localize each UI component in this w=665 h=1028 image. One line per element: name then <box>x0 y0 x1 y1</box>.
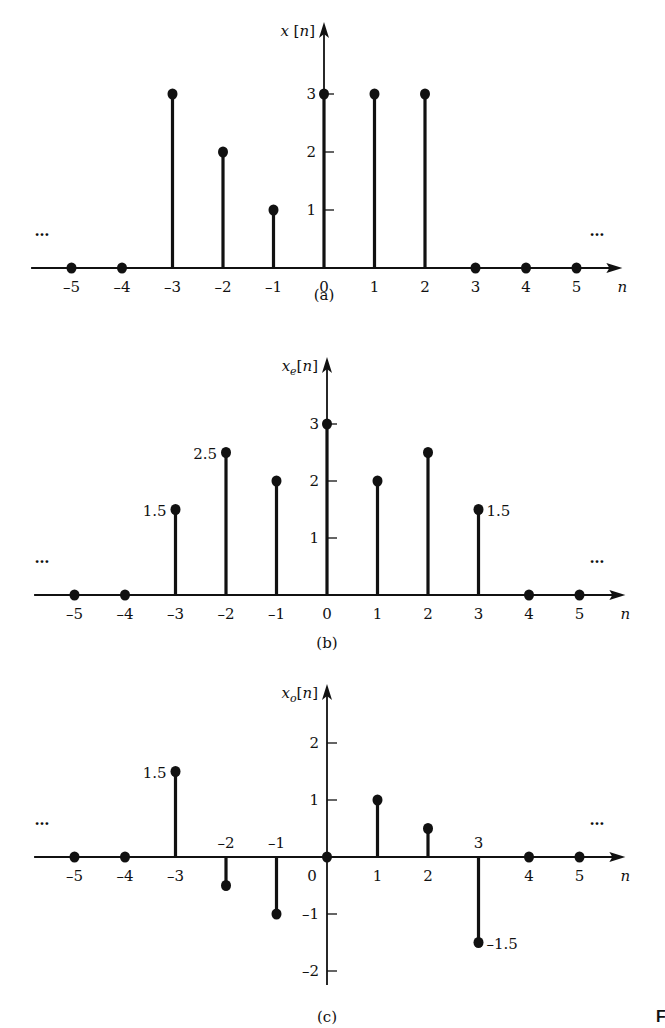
point-value-label: 1.5 <box>143 764 167 782</box>
x-tick-label: 4 <box>524 605 534 623</box>
stem-marker <box>373 476 383 487</box>
stem-marker <box>120 852 130 863</box>
x-tick-label: 0 <box>322 605 332 623</box>
stem-marker <box>269 205 279 216</box>
y-tick-label: 3 <box>309 415 319 433</box>
stem-marker <box>524 852 534 863</box>
x-tick-label: 0 <box>307 867 317 885</box>
continuation-dots-right: … <box>590 811 605 829</box>
panel-a-x-of-n: x [n]123–5–4–3–2–1012345n……(a) <box>31 22 627 304</box>
panel-b-even-part: xe[n]123–5–4–3–2–1012345n1.52.51.5……(b) <box>34 357 630 652</box>
x-axis-label: n <box>621 605 631 623</box>
continuation-dots-left: … <box>35 549 50 567</box>
panel-c-odd-part: xo[n]–2–112–5–4–3–2–1012345n1.5–1.5……(c) <box>34 684 630 1026</box>
stem-marker <box>373 795 383 806</box>
x-tick-label: 5 <box>572 278 582 296</box>
x-tick-label: 3 <box>471 278 481 296</box>
x-tick-label: –5 <box>66 867 83 885</box>
stem-marker <box>171 766 181 777</box>
x-axis-label: n <box>618 278 628 296</box>
panel-caption: (c) <box>317 1008 337 1026</box>
x-tick-label: 2 <box>420 278 430 296</box>
x-tick-label: 2 <box>423 605 433 623</box>
stem-marker <box>474 937 484 948</box>
point-value-label: –1.5 <box>487 935 518 953</box>
continuation-dots-right: … <box>590 222 605 240</box>
x-tick-label: –1 <box>268 605 285 623</box>
x-tick-label: –2 <box>214 278 231 296</box>
y-tick-label: 3 <box>306 85 316 103</box>
x-tick-label: –5 <box>66 605 83 623</box>
point-value-label: 1.5 <box>143 502 167 520</box>
y-tick-label: 1 <box>309 791 319 809</box>
x-axis-label: n <box>621 867 631 885</box>
signal-decomposition-figure: x [n]123–5–4–3–2–1012345n……(a) xe[n]123–… <box>0 0 665 1028</box>
x-tick-label: 4 <box>521 278 531 296</box>
stem-marker <box>575 590 585 601</box>
x-tick-label: 4 <box>524 867 534 885</box>
x-tick-label: 5 <box>575 867 585 885</box>
stem-marker <box>370 89 380 100</box>
x-tick-label: –2 <box>217 605 234 623</box>
x-tick-label: 3 <box>474 834 484 852</box>
x-tick-label: –4 <box>116 605 133 623</box>
stem-marker <box>70 590 80 601</box>
stem-marker <box>168 89 178 100</box>
panel-caption: (b) <box>316 634 337 652</box>
stem-marker <box>575 852 585 863</box>
stem-marker <box>221 880 231 891</box>
y-axis-label: x [n] <box>280 22 315 40</box>
stem-marker <box>117 263 127 274</box>
x-tick-label: 1 <box>370 278 380 296</box>
y-axis-label: xo[n] <box>282 684 318 705</box>
x-tick-label: –1 <box>265 278 282 296</box>
stem-marker <box>521 263 531 274</box>
x-tick-label: –1 <box>268 834 285 852</box>
y-tick-label: 2 <box>309 734 319 752</box>
x-tick-label: –4 <box>116 867 133 885</box>
y-tick-label: 1 <box>309 529 319 547</box>
x-tick-label: –4 <box>113 278 130 296</box>
stem-marker <box>272 476 282 487</box>
stem-marker <box>423 447 433 458</box>
x-tick-label: –3 <box>167 867 184 885</box>
figure-label-fragment: F <box>656 1008 665 1025</box>
y-tick-label: 2 <box>309 472 319 490</box>
x-tick-label: 2 <box>423 867 433 885</box>
x-tick-label: 1 <box>373 605 383 623</box>
stem-marker <box>423 823 433 834</box>
x-tick-label: 5 <box>575 605 585 623</box>
stem-marker <box>471 263 481 274</box>
stem-marker <box>322 852 332 863</box>
stem-marker <box>420 89 430 100</box>
continuation-dots-left: … <box>35 811 50 829</box>
stem-marker <box>120 590 130 601</box>
point-value-label: 2.5 <box>193 445 217 463</box>
stem-marker <box>572 263 582 274</box>
panel-caption: (a) <box>314 286 335 304</box>
stem-marker <box>70 852 80 863</box>
stem-marker <box>67 263 77 274</box>
x-tick-label: –5 <box>63 278 80 296</box>
y-axis-label: xe[n] <box>282 357 318 378</box>
stem-marker <box>319 89 329 100</box>
stem-marker <box>524 590 534 601</box>
x-tick-label: 3 <box>474 605 484 623</box>
x-tick-label: 1 <box>373 867 383 885</box>
y-tick-label: 1 <box>306 201 316 219</box>
y-tick-label: –1 <box>302 905 319 923</box>
y-tick-label: 2 <box>306 143 316 161</box>
stem-marker <box>218 147 228 158</box>
continuation-dots-right: … <box>590 549 605 567</box>
stem-marker <box>322 419 332 430</box>
stem-marker <box>272 909 282 920</box>
stem-marker <box>474 504 484 515</box>
x-tick-label: –2 <box>217 834 234 852</box>
x-tick-label: –3 <box>164 278 181 296</box>
continuation-dots-left: … <box>35 222 50 240</box>
stem-marker <box>171 504 181 515</box>
y-tick-label: –2 <box>302 962 319 980</box>
point-value-label: 1.5 <box>487 502 511 520</box>
stem-marker <box>221 447 231 458</box>
x-tick-label: –3 <box>167 605 184 623</box>
